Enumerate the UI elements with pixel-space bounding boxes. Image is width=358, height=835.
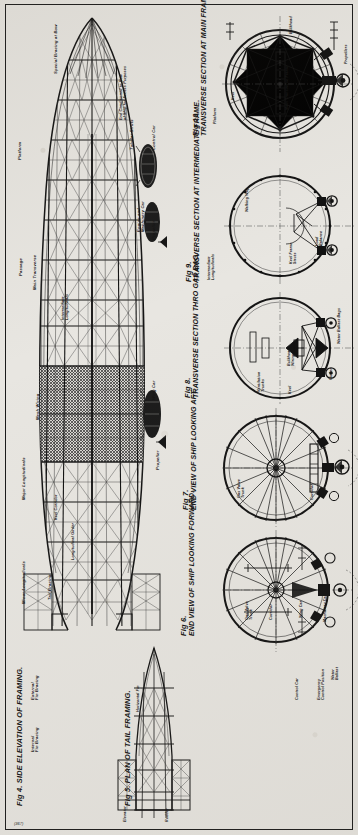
- fig6-label-emergency-control-position: EmergencyControl Position: [318, 669, 326, 700]
- fig7-end-view-aft-drawing: [222, 408, 354, 528]
- fig7-label-corridor: Corridor: [311, 484, 315, 500]
- fig4-caption: Fig 4. SIDE ELEVATION OF FRAMING.: [16, 667, 24, 806]
- fig4-label-propeller-aft: Propeller: [156, 450, 160, 470]
- engineering-plate: Fig 4. SIDE ELEVATION OF FRAMING. Intern…: [0, 0, 358, 835]
- fig10-label-bulkhead: Bulkhead: [290, 16, 294, 34]
- fig6-label-water-ballast: WaterBallast: [332, 667, 340, 680]
- fig4-label-keel-corridor: Keel Corridor: [55, 494, 59, 520]
- fig9-label-walking-way: Walking Way: [246, 188, 250, 212]
- fig10-label-propellers: Propellers: [345, 44, 349, 64]
- fig10-label-keel: Keel: [232, 92, 236, 100]
- fig4-label-control-car: Control Car: [152, 125, 156, 150]
- fig6-label-machinery-car: Machinery Car: [324, 595, 328, 622]
- fig4-side-elevation-drawing: [12, 14, 172, 634]
- fig4-label-tubular-struts: Tubular Struts: [130, 119, 134, 150]
- fig4-label-main-transverse: Main Transverse: [33, 255, 37, 290]
- fig5-label-horizontal-fin: Horizontal Fin: [137, 685, 141, 712]
- fig4-label-propeller-fwd: Propeller: [152, 220, 156, 240]
- fig4-label-longitudinal-girder: Longitudinal Girder: [72, 523, 76, 560]
- fig6-caption: Fig 6. END VIEW OF SHIP LOOKING FORWARD.: [180, 491, 196, 636]
- fig9-section-intermediate-frame-drawing: [224, 168, 354, 286]
- fig8-label-keel: Keel: [289, 386, 293, 394]
- fig4-label-platform: Platform: [18, 142, 22, 160]
- fig4-label-special-bracing-at-bow: Special Bracing at Bow: [54, 24, 58, 74]
- fig4-label-mesh-wiring: Mesh Wiring: [36, 394, 40, 421]
- fig8-label-bulkhead-wiring: BulkheadWiring: [288, 348, 296, 366]
- fig9-label-load-balance: LoadBalance: [316, 231, 324, 246]
- fig4-label-intermediate-longitudinals: IntermediateLongitudinals: [62, 294, 70, 320]
- plate-corner-note: (367): [14, 821, 23, 826]
- fig10-label-platform: Platform: [214, 108, 218, 124]
- fig6-label-wing-car: Wing Car: [300, 601, 304, 618]
- fig5-label-rudder: Rudder: [166, 808, 170, 822]
- fig4-label-passage: Passage: [19, 258, 23, 276]
- fig8-label-water-ballast-bags: Water Ballast Bags: [338, 308, 342, 344]
- fig7-label-gas-valve-trunk: Gas ValveTrunk: [238, 479, 246, 498]
- fig4-label-engine-machinery-car: Engine andMachinery Car: [137, 201, 146, 232]
- control-car: [136, 144, 157, 188]
- fig4-label-tail-bracing: Tail Bracing: [48, 574, 52, 600]
- fig4-label-external-fin-bracing: ExternalFin Bracing: [31, 675, 40, 700]
- fig10-label-main-transverse-frame: Main Transverse Frame: [286, 66, 290, 110]
- fig4-label-end-conditioned-to-bow: End Conditioned to Bowof Ship for Access…: [120, 66, 128, 120]
- fig8-caption: Fig 8. TRANSVERSE SECTION THRO GAS BAG.: [184, 252, 200, 398]
- fig6-label-gas-valve-trunk: Gas ValveTrunk: [246, 601, 254, 620]
- fig5-caption: Fig 5. PLAN OF TAIL FRAMING.: [124, 690, 132, 806]
- fig6-label-corridor: Corridor: [270, 604, 274, 620]
- fig9-label-keel-frame-struts: Keel FrameStruts: [290, 243, 298, 264]
- fig4-label-major-longitudinals: Major Longitudinals: [22, 457, 26, 500]
- fig9-label-intermediate-longitudinals: IntermediateLongitudinals: [208, 254, 216, 280]
- fig8-label-ventilation-trunks: VentilationTrunks: [258, 372, 266, 392]
- fig6-end-view-forward-drawing: [222, 530, 354, 652]
- fig4-label-wing-car: Wing Car: [152, 380, 156, 400]
- fig5-label-elevator: Elevator: [124, 806, 128, 822]
- fig6-label-control-car: Control Car: [296, 678, 300, 700]
- fig4-label-internal-fin-bracing: InternalFin Bracing: [31, 727, 40, 752]
- fig4-label-minor-longitudinals: Minor Longitudinals: [22, 561, 26, 604]
- fig8-label-girder: Girder: [330, 368, 334, 380]
